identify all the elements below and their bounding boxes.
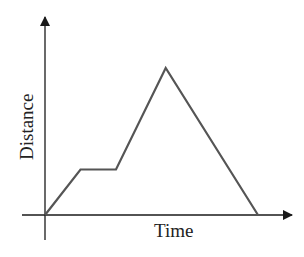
y-axis-label: Distance bbox=[16, 94, 37, 160]
distance-line bbox=[45, 68, 258, 215]
x-axis-label: Time bbox=[154, 220, 193, 241]
distance-time-chart: Time Distance bbox=[0, 0, 304, 257]
